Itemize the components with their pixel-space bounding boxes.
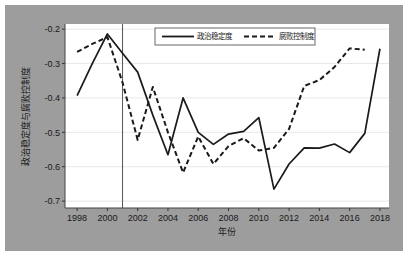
y-tick-label: -0.6: [44, 162, 60, 172]
x-tick-label: 2016: [340, 213, 360, 223]
line-chart: -0.2-0.3-0.4-0.5-0.6-0.7 199820002002200…: [5, 5, 408, 256]
chart-figure: -0.2-0.3-0.4-0.5-0.6-0.7 199820002002200…: [0, 0, 408, 256]
x-tick-label: 1998: [67, 213, 87, 223]
legend-label-2: 腐败控制度: [279, 31, 315, 41]
x-tick-label: 2006: [188, 213, 208, 223]
y-axis-ticks: -0.2-0.3-0.4-0.5-0.6-0.7: [44, 24, 65, 206]
x-tick-label: 2012: [279, 213, 299, 223]
y-axis-title: 政治稳定度与腐败控制度: [20, 67, 31, 166]
y-tick-label: -0.2: [44, 24, 60, 34]
legend-label-1: 政治稳定度: [197, 31, 233, 41]
y-tick-label: -0.3: [44, 59, 60, 69]
x-tick-label: 2000: [97, 213, 117, 223]
x-tick-label: 2008: [218, 213, 238, 223]
x-tick-label: 2002: [128, 213, 148, 223]
y-tick-label: -0.5: [44, 128, 60, 138]
x-tick-label: 2018: [370, 213, 390, 223]
y-tick-label: -0.4: [44, 93, 60, 103]
chart-legend: 政治稳定度腐败控制度: [155, 28, 315, 45]
y-tick-label: -0.7: [44, 196, 60, 206]
x-axis-ticks: 1998200020022004200620082010201220142016…: [67, 208, 390, 223]
plot-area-background: [65, 24, 389, 208]
x-tick-label: 2004: [158, 213, 178, 223]
x-axis-title: 年份: [218, 226, 236, 237]
x-tick-label: 2014: [309, 213, 329, 223]
x-tick-label: 2010: [249, 213, 269, 223]
